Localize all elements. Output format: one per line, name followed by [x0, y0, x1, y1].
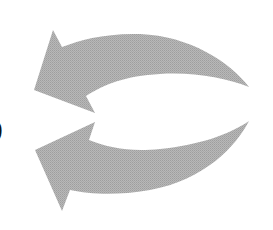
curved-arrows-graphic [0, 0, 273, 230]
lower-arrow-icon [35, 121, 249, 211]
upper-arrow-icon [34, 30, 249, 113]
